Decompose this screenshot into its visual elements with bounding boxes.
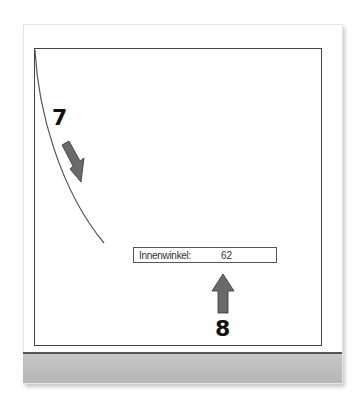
inner-angle-input[interactable]: Innenwinkel: 62 [133, 247, 277, 263]
status-bar [23, 352, 342, 383]
inner-angle-label: Innenwinkel: [139, 250, 221, 261]
inner-angle-value[interactable]: 62 [221, 250, 232, 261]
arrow-up-icon [212, 274, 234, 313]
step-8-label: 8 [215, 316, 230, 341]
step-7-label: 7 [52, 105, 67, 130]
canvas-overlay [0, 0, 359, 407]
arrow-down-right-icon [62, 141, 84, 182]
